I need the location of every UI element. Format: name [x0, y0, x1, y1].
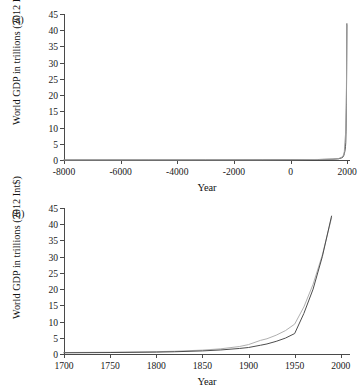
panel-b-y-tick-label: 0: [53, 349, 58, 360]
panel-a-x-tick: [347, 160, 348, 164]
panel-b-y-tick-label: 20: [48, 284, 58, 295]
panel-a: (a) World GDP in trillions (2012 Int$) 0…: [0, 0, 361, 194]
panel-b-y-tick-label: 35: [48, 235, 58, 246]
panel-a-y-tick-label: 35: [48, 41, 58, 52]
panel-b-y-tick-label: 30: [48, 251, 58, 262]
panel-b-x-tick-label: 1850: [193, 360, 212, 371]
panel-b-x-tick-label: 1750: [101, 360, 120, 371]
panel-b-y-tick-label: 5: [53, 332, 58, 343]
panel-a-plot-area: 051015202530354045-8000-6000-4000-200002…: [64, 14, 350, 160]
panel-a-y-tick-label: 40: [48, 25, 58, 36]
panel-b-x-tick-label: 1700: [54, 360, 73, 371]
panel-b-y-tick-label: 25: [48, 267, 58, 278]
panel-a-x-tick: [121, 160, 122, 164]
panel-a-y-tick-label: 25: [48, 73, 58, 84]
panel-a-x-tick: [291, 160, 292, 164]
panel-b-x-tick: [156, 354, 157, 358]
panel-b-x-tick-label: 1950: [285, 360, 304, 371]
panel-b-y-tick-label: 45: [48, 203, 58, 214]
panel-a-x-tick-label: 2000: [338, 166, 357, 177]
panel-a-x-tick: [177, 160, 178, 164]
panel-a-curves: [64, 14, 350, 160]
series-line: [64, 218, 332, 353]
figure-world-gdp: (a) World GDP in trillions (2012 Int$) 0…: [0, 0, 361, 388]
series-line: [64, 25, 347, 160]
panel-b-x-tick: [295, 354, 296, 358]
panel-b-x-tick: [341, 354, 342, 358]
panel-b-x-tick: [202, 354, 203, 358]
panel-b-x-tick-label: 1900: [239, 360, 258, 371]
panel-a-y-tick-label: 30: [48, 57, 58, 68]
series-line: [64, 216, 332, 353]
panel-b-x-axis-label: Year: [64, 376, 350, 387]
panel-b-x-tick: [249, 354, 250, 358]
panel-a-y-tick-label: 20: [48, 90, 58, 101]
panel-b-curves: [64, 208, 350, 354]
panel-a-y-tick-label: 15: [48, 106, 58, 117]
panel-b: (b) World GDP in trillions (2012 Int$) 0…: [0, 194, 361, 388]
panel-a-y-axis-label: World GDP in trillions (2012 Int$): [11, 0, 22, 134]
panel-b-plot-area: 0510152025303540451700175018001850190019…: [64, 208, 350, 354]
panel-a-x-tick-label: -8000: [53, 166, 75, 177]
panel-b-y-tick-label: 40: [48, 219, 58, 230]
panel-a-x-tick-label: -2000: [223, 166, 245, 177]
panel-a-x-tick-label: -4000: [166, 166, 188, 177]
panel-b-x-tick-label: 1800: [147, 360, 166, 371]
panel-a-y-tick-label: 0: [53, 155, 58, 166]
panel-b-y-tick-label: 10: [48, 316, 58, 327]
series-line: [64, 24, 347, 160]
panel-a-x-tick-label: 0: [288, 166, 293, 177]
panel-a-x-axis-label: Year: [64, 182, 350, 193]
panel-a-x-tick-label: -6000: [109, 166, 131, 177]
panel-b-y-axis-label: World GDP in trillions (2012 Int$): [11, 168, 22, 328]
panel-a-y-tick-label: 5: [53, 138, 58, 149]
panel-b-x-tick-label: 2000: [331, 360, 350, 371]
panel-a-y-tick-label: 45: [48, 9, 58, 20]
panel-b-x-axis-line: [64, 354, 350, 355]
panel-b-y-tick-label: 15: [48, 300, 58, 311]
panel-a-x-tick: [234, 160, 235, 164]
panel-a-x-tick: [64, 160, 65, 164]
panel-b-x-tick: [110, 354, 111, 358]
panel-b-x-tick: [64, 354, 65, 358]
panel-a-y-tick-label: 10: [48, 122, 58, 133]
